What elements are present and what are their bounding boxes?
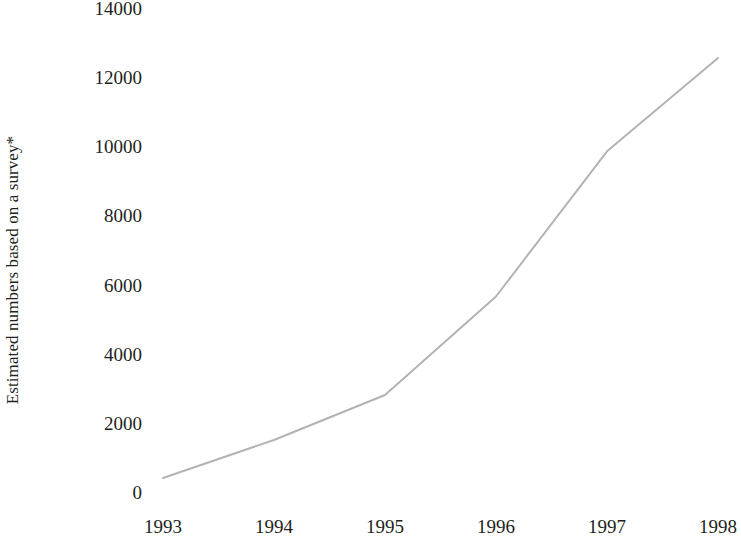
data-series-line bbox=[163, 58, 718, 478]
x-tick-label: 1996 bbox=[451, 516, 541, 538]
x-tick-label: 1995 bbox=[340, 516, 430, 538]
x-tick-label: 1993 bbox=[118, 516, 208, 538]
x-axis-tick-labels: 199319941995199619971998 bbox=[0, 516, 733, 540]
x-tick-label: 1998 bbox=[673, 516, 741, 538]
x-tick-label: 1997 bbox=[562, 516, 652, 538]
x-tick-label: 1994 bbox=[229, 516, 319, 538]
